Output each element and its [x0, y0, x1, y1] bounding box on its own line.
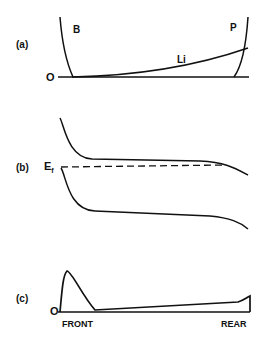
band-diagram: (a) O B P Li (b) Ef (c) O FRONT REAR	[0, 0, 263, 343]
fermi-label: Ef	[44, 160, 54, 174]
panel-c-origin-label: O	[50, 305, 59, 317]
curve-b	[60, 17, 73, 77]
distribution-curve	[60, 271, 250, 312]
curve-label-p: P	[230, 22, 237, 33]
curve-label-b: B	[73, 24, 80, 35]
panel-b: (b) Ef	[16, 118, 248, 229]
curve-li	[72, 48, 248, 77]
curve-label-li: Li	[177, 54, 186, 65]
rear-label: REAR	[221, 319, 247, 329]
panel-a-label: (a)	[16, 39, 28, 50]
fermi-level-line	[61, 165, 225, 167]
front-label: FRONT	[62, 319, 93, 329]
panel-a: (a) O B P Li	[16, 17, 249, 83]
valence-band-edge	[61, 168, 248, 229]
panel-c-label: (c)	[16, 293, 28, 304]
panel-a-origin-label: O	[46, 71, 55, 83]
panel-b-label: (b)	[16, 162, 29, 173]
panel-c: (c) O FRONT REAR	[16, 271, 250, 329]
